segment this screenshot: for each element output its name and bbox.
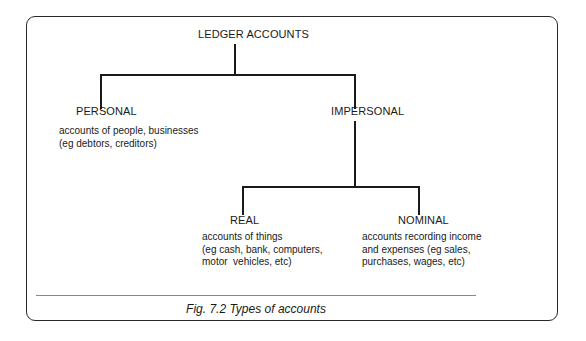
nominal-description: accounts recording income and expenses (… (362, 231, 482, 269)
connector-to-impersonal (354, 74, 356, 109)
connector-to-personal (100, 74, 102, 109)
personal-description: accounts of people, businesses (eg debto… (59, 125, 199, 150)
node-personal: PERSONAL (76, 105, 137, 117)
figure-frame (26, 16, 558, 321)
connector-impersonal-down (354, 121, 356, 187)
connector-to-nominal (418, 186, 420, 215)
connector-root-down (234, 44, 236, 75)
node-ledger-accounts: LEDGER ACCOUNTS (198, 28, 309, 40)
real-description: accounts of things (eg cash, bank, compu… (202, 231, 323, 269)
connector-to-real (242, 186, 244, 215)
figure-caption: Fig. 7.2 Types of accounts (0, 302, 512, 316)
caption-divider (36, 295, 476, 296)
node-real: REAL (230, 214, 259, 226)
node-nominal: NOMINAL (398, 214, 449, 226)
connector-level1-horizontal (100, 74, 355, 76)
connector-level2-horizontal (242, 186, 420, 188)
node-impersonal: IMPERSONAL (331, 105, 404, 117)
